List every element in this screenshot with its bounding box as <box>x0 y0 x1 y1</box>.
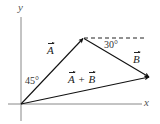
x-axis-label: x <box>144 97 149 108</box>
sum-label-b: B <box>88 74 95 85</box>
sum-label-a: A <box>68 74 75 85</box>
angle-30-label: 30° <box>104 40 118 50</box>
vector-a-label: A <box>47 45 54 56</box>
sum-label-plus: + <box>78 73 84 85</box>
y-axis-label: y <box>18 2 23 13</box>
vector-sum-label: A + B <box>68 74 95 85</box>
angle-45-label: 45° <box>25 76 39 86</box>
vector-b-label: B <box>133 54 140 65</box>
